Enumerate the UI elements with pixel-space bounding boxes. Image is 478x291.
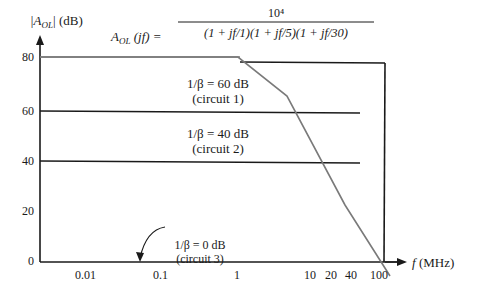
y-tick-80: 80 [22, 51, 34, 63]
equation-denominator: (1 + jf/1)(1 + jf/5)(1 + jf/30) [178, 27, 374, 40]
equation-numerator: 10⁴ [178, 7, 374, 19]
box-top-line [240, 62, 385, 63]
circuit2-40db-line [40, 161, 360, 163]
x-tick-40: 40 [345, 269, 357, 281]
box-right-line [384, 63, 385, 262]
circuit1-60db-line [40, 111, 360, 113]
y-axis-arrow-icon [36, 35, 44, 45]
y-tick-20: 20 [22, 205, 34, 217]
y-tick-40: 40 [22, 155, 34, 167]
x-tick-100: 100 [370, 269, 388, 281]
x-tick-10: 10 [304, 269, 316, 281]
x-tick-20: 20 [325, 269, 337, 281]
y-tick-0: 0 [28, 255, 34, 267]
annotation-circuit2: 1/β = 40 dB (circuit 2) [158, 127, 278, 155]
x-axis-arrow-icon [397, 258, 407, 266]
x-axis-label: f (MHz) [412, 256, 454, 269]
circuit3-arrowhead-icon [136, 252, 144, 262]
annotation-circuit3: 1/β = 0 dB (circuit 3) [160, 239, 240, 265]
y-tick-60: 60 [22, 105, 34, 117]
annotation-circuit1: 1/β = 60 dB (circuit 1) [158, 77, 278, 105]
x-tick-0.01: 0.01 [75, 269, 96, 281]
x-tick-1: 1 [234, 269, 240, 281]
y-axis-label: |AOL| (dB) [30, 14, 83, 30]
x-tick-0.1: 0.1 [153, 269, 168, 281]
equation-lhs: AOL (jf) = [111, 30, 162, 46]
